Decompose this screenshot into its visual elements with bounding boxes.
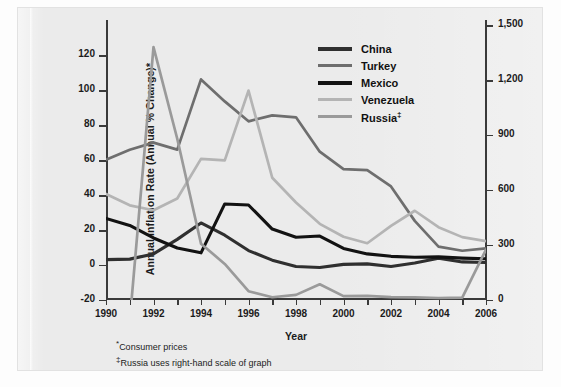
footnote-2: ‡Russia uses right-hand scale of graph	[116, 354, 272, 370]
legend-swatch-venezuela	[318, 98, 352, 101]
y-tick-left	[99, 90, 106, 91]
legend-swatch-turkey	[318, 64, 352, 67]
x-tick-label: 1996	[226, 308, 272, 319]
series-line-venezuela	[106, 91, 486, 244]
x-tick-label: 1994	[178, 308, 224, 319]
legend-item-russia: Russia‡	[318, 108, 414, 125]
y-tick-label-right: 600	[498, 183, 544, 194]
x-tick-label: 2006	[463, 308, 509, 319]
y-tick-label-right: 0	[498, 293, 544, 304]
y-tick-label-left: 120	[55, 48, 95, 59]
legend-swatch-china	[318, 47, 352, 51]
x-tick-label: 1990	[83, 308, 129, 319]
y-tick-left	[99, 125, 106, 126]
legend-label-venezuela: Venezuela	[361, 94, 414, 106]
series-line-turkey	[106, 79, 486, 250]
y-tick-label-left: 0	[55, 258, 95, 269]
chart-legend: ChinaTurkeyMexicoVenezuelaRussia‡	[318, 40, 414, 125]
legend-label-russia: Russia‡	[361, 110, 402, 124]
legend-item-turkey: Turkey	[318, 57, 414, 74]
footnote-1: *Consumer prices	[116, 338, 272, 354]
y-tick-left	[99, 230, 106, 231]
plot-area: Annual Inflation Rate (Annual % Change)*…	[106, 38, 486, 300]
y-tick-label-left: 80	[55, 118, 95, 129]
legend-label-mexico: Mexico	[361, 77, 398, 89]
series-line-mexico	[106, 204, 486, 259]
series-line-russia	[130, 47, 486, 321]
x-tick-label: 1998	[273, 308, 319, 319]
y-tick-right	[486, 80, 493, 81]
x-tick	[486, 299, 487, 305]
chart-panel: Annual Inflation Rate (Annual % Change)*…	[18, 8, 542, 370]
footnote-1-text: Consumer prices	[119, 342, 187, 352]
y-tick-label-right: 1,200	[498, 73, 544, 84]
footnote-2-text: Russia uses right-hand scale of graph	[120, 358, 271, 368]
y-tick-label-left: 40	[55, 188, 95, 199]
y-tick-label-right: 1,500	[498, 18, 544, 29]
legend-label-china: China	[361, 43, 392, 55]
y-tick-left	[99, 160, 106, 161]
legend-swatch-mexico	[318, 81, 352, 85]
y-tick-label-right: 900	[498, 128, 544, 139]
y-tick-right	[486, 245, 493, 246]
y-tick-right	[486, 190, 493, 191]
x-tick-label: 1992	[131, 308, 177, 319]
y-tick-right	[486, 135, 493, 136]
legend-footnote-marker: ‡	[397, 110, 401, 119]
x-tick-label: 2000	[321, 308, 367, 319]
y-tick-label-right: 300	[498, 238, 544, 249]
chart-footnotes: *Consumer prices ‡Russia uses right-hand…	[116, 338, 272, 369]
legend-item-mexico: Mexico	[318, 74, 414, 91]
x-tick-label: 2002	[368, 308, 414, 319]
legend-item-venezuela: Venezuela	[318, 91, 414, 108]
y-tick-left	[99, 55, 106, 56]
series-lines	[106, 38, 486, 300]
y-tick-right	[486, 25, 493, 26]
legend-label-turkey: Turkey	[361, 60, 396, 72]
y-tick-left	[99, 195, 106, 196]
series-line-china	[106, 223, 486, 268]
x-tick-label: 2004	[416, 308, 462, 319]
y-tick-label-left: -20	[55, 293, 95, 304]
legend-item-china: China	[318, 40, 414, 57]
y-tick-label-left: 20	[55, 223, 95, 234]
y-tick-left	[99, 300, 106, 301]
y-tick-left	[99, 265, 106, 266]
chart-page: Annual Inflation Rate (Annual % Change)*…	[0, 0, 561, 387]
legend-swatch-russia	[318, 115, 352, 118]
y-tick-label-left: 60	[55, 153, 95, 164]
y-tick-label-left: 100	[55, 83, 95, 94]
